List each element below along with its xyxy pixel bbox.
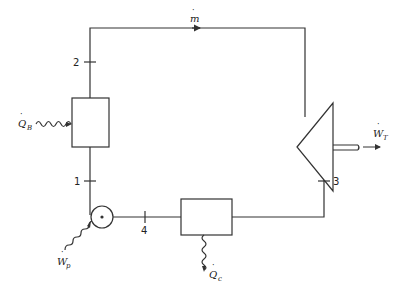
svg-text:4: 4 xyxy=(141,225,147,236)
svg-text:T: T xyxy=(383,134,389,142)
turbine-work-output: W · T xyxy=(363,120,389,147)
svg-text:·: · xyxy=(61,248,64,257)
pump-work-label: W · p xyxy=(57,248,71,270)
condenser-heat-label: Q · c xyxy=(209,261,222,283)
turbine xyxy=(297,103,333,191)
svg-text:c: c xyxy=(218,275,222,283)
svg-text:·: · xyxy=(20,110,23,119)
svg-text:·: · xyxy=(377,120,380,129)
top-pipe xyxy=(90,28,305,117)
svg-text:1: 1 xyxy=(74,176,80,187)
condenser-heat-rejection: Q · c xyxy=(202,235,222,283)
svg-text:2: 2 xyxy=(73,57,79,68)
svg-text:Q: Q xyxy=(18,118,26,129)
turbine-shaft xyxy=(333,145,359,150)
boiler xyxy=(72,98,109,147)
turbine-work-label: W · T xyxy=(373,120,389,142)
state-2-marker: 2 xyxy=(73,57,96,68)
svg-text:·: · xyxy=(212,261,215,270)
condenser xyxy=(181,199,232,235)
mass-flow-label: m · xyxy=(190,6,199,24)
state-4-marker: 4 xyxy=(141,211,147,236)
state-1-marker: 1 xyxy=(74,176,96,187)
svg-text:3: 3 xyxy=(333,176,339,187)
cycle-diagram: m · 2 Q · B 1 W · p xyxy=(0,0,405,294)
svg-text:·: · xyxy=(192,6,195,15)
pipe-turbine-condenser xyxy=(232,180,324,217)
boiler-heat-input: Q · B xyxy=(18,110,72,132)
svg-text:B: B xyxy=(26,124,32,132)
pump xyxy=(91,206,113,228)
svg-text:Q: Q xyxy=(209,269,217,280)
svg-text:p: p xyxy=(66,262,71,270)
pump-work-input: W · p xyxy=(57,221,92,270)
boiler-heat-label: Q · B xyxy=(18,110,32,132)
